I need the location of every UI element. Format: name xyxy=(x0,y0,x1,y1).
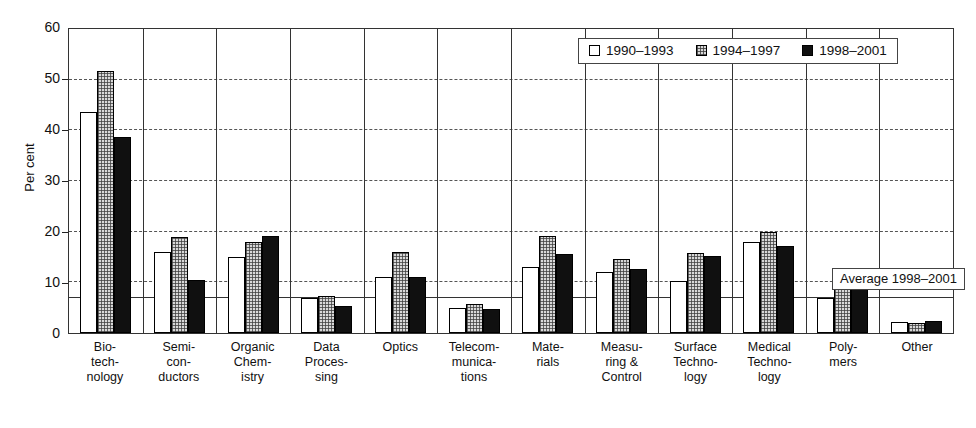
bar-group xyxy=(511,29,585,333)
bar xyxy=(556,254,573,333)
bar xyxy=(851,283,868,333)
y-axis-tick-labels: 0102030405060 xyxy=(30,0,60,428)
bar xyxy=(245,242,262,333)
bar xyxy=(154,252,171,333)
x-category-label: Surface Techno- logy xyxy=(659,340,733,385)
legend-item-label: 1994–1997 xyxy=(713,43,781,58)
legend-item: 1994–1997 xyxy=(696,43,781,58)
x-category-label: Optics xyxy=(363,340,437,385)
legend-item: 1990–1993 xyxy=(589,43,674,58)
bar xyxy=(114,137,131,333)
x-category-label: Poly- mers xyxy=(806,340,880,385)
bar xyxy=(409,277,426,333)
x-category-label: Telecom- munica- tions xyxy=(437,340,511,385)
plot-area xyxy=(68,28,954,334)
x-category-label: Medical Techno- logy xyxy=(732,340,806,385)
bar xyxy=(777,246,794,333)
legend-item: 1998–2001 xyxy=(802,43,887,58)
bar xyxy=(760,232,777,333)
x-category-label: Measu- ring & Control xyxy=(585,340,659,385)
legend-swatch-gray xyxy=(696,45,707,56)
y-tick-label: 50 xyxy=(34,71,60,85)
average-annotation-label: Average 1998–2001 xyxy=(832,268,965,290)
bar-group xyxy=(732,29,806,333)
y-tick-label: 0 xyxy=(34,326,60,340)
bar xyxy=(97,71,114,333)
bar xyxy=(301,298,318,333)
bar-group xyxy=(143,29,217,333)
bar-group xyxy=(658,29,732,333)
y-tick-label: 10 xyxy=(34,275,60,289)
y-tick-label: 60 xyxy=(34,20,60,34)
bar xyxy=(375,277,392,333)
x-category-label: Bio- tech- nology xyxy=(68,340,142,385)
bar-group xyxy=(290,29,364,333)
bar xyxy=(335,306,352,333)
bar xyxy=(318,296,335,333)
bar xyxy=(539,236,556,333)
y-tick-label: 40 xyxy=(34,122,60,136)
x-category-label: Mate- rials xyxy=(511,340,585,385)
y-tick-label: 30 xyxy=(34,173,60,187)
x-category-label: Semi- con- ductors xyxy=(142,340,216,385)
bar xyxy=(834,284,851,333)
bar xyxy=(262,236,279,333)
bar xyxy=(630,269,647,333)
x-category-label: Other xyxy=(880,340,954,385)
legend-item-label: 1998–2001 xyxy=(819,43,887,58)
bar xyxy=(449,308,466,333)
bar-group xyxy=(364,29,438,333)
bar xyxy=(228,257,245,333)
bar xyxy=(613,259,630,333)
bar xyxy=(687,253,704,333)
chart-figure: Per cent 0102030405060 1990–19931994–199… xyxy=(0,0,976,428)
x-axis-category-labels: Bio- tech- nologySemi- con- ductorsOrgan… xyxy=(68,340,954,385)
legend: 1990–19931994–19971998–2001 xyxy=(578,38,898,64)
bar-group xyxy=(69,29,143,333)
bar xyxy=(704,256,721,333)
bar xyxy=(188,280,205,333)
bar xyxy=(743,242,760,333)
bar xyxy=(392,252,409,333)
bar xyxy=(522,267,539,333)
bar-group xyxy=(216,29,290,333)
bar xyxy=(466,304,483,333)
y-tick-label: 20 xyxy=(34,224,60,238)
bar xyxy=(817,298,834,333)
bar-group xyxy=(585,29,659,333)
bar-group xyxy=(437,29,511,333)
bar xyxy=(171,237,188,333)
legend-swatch-black xyxy=(802,45,813,56)
x-category-label: Organic Chem- istry xyxy=(216,340,290,385)
bar xyxy=(908,323,925,333)
bar xyxy=(891,322,908,333)
legend-swatch-white xyxy=(589,45,600,56)
bar xyxy=(925,321,942,333)
legend-item-label: 1990–1993 xyxy=(606,43,674,58)
bar xyxy=(596,272,613,333)
bar xyxy=(670,281,687,333)
x-category-label: Data Proces- sing xyxy=(289,340,363,385)
bar xyxy=(80,112,97,333)
bar-groups xyxy=(69,29,953,333)
bar xyxy=(483,309,500,333)
